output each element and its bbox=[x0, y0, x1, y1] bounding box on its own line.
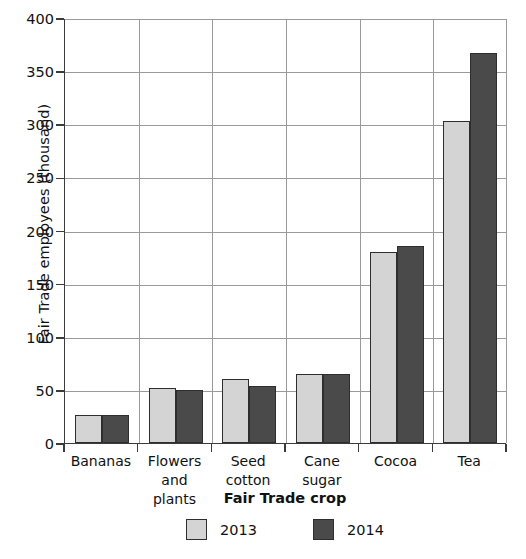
y-axis-tick bbox=[56, 178, 64, 180]
y-axis-tick-label: 350 bbox=[4, 64, 54, 80]
x-axis-tick bbox=[63, 444, 65, 452]
y-axis-tick-label: 250 bbox=[4, 170, 54, 186]
category-label-line: sugar bbox=[285, 471, 359, 490]
y-axis-tick bbox=[56, 71, 64, 73]
bar-seed-cotton-2013 bbox=[222, 379, 249, 443]
group-separator-gridline bbox=[360, 19, 361, 443]
category-label-cane-sugar: Canesugar bbox=[285, 452, 359, 490]
x-axis-tick bbox=[432, 444, 434, 452]
y-axis-tick-label: 200 bbox=[4, 224, 54, 240]
bar-cane-sugar-2013 bbox=[296, 374, 323, 443]
bar-bananas-2014 bbox=[102, 415, 129, 443]
legend-label-2014: 2014 bbox=[347, 522, 384, 538]
legend-item-2013: 2013 bbox=[186, 519, 257, 540]
category-label-tea: Tea bbox=[432, 452, 506, 471]
bar-cocoa-2014 bbox=[397, 246, 424, 443]
bar-flowers-and-plants-2013 bbox=[149, 388, 176, 443]
y-axis-tick-label: 100 bbox=[4, 330, 54, 346]
y-axis-tick-label: 50 bbox=[4, 383, 54, 399]
y-axis-tick-label: 400 bbox=[4, 11, 54, 27]
chart-legend: 20132014 bbox=[64, 519, 506, 540]
y-axis-tick-label: 0 bbox=[4, 436, 54, 452]
category-label-line: Bananas bbox=[64, 452, 138, 471]
category-label-bananas: Bananas bbox=[64, 452, 138, 471]
bar-seed-cotton-2014 bbox=[249, 386, 276, 443]
category-label-line: Cane bbox=[285, 452, 359, 471]
category-label-line: Flowers bbox=[138, 452, 212, 471]
bar-tea-2014 bbox=[470, 53, 497, 443]
plot-right-edge bbox=[506, 19, 507, 443]
legend-label-2013: 2013 bbox=[220, 522, 257, 538]
x-axis-tick bbox=[284, 444, 286, 452]
x-axis-title: Fair Trade crop bbox=[64, 490, 506, 506]
category-label-line: Seed bbox=[211, 452, 285, 471]
y-axis-tick bbox=[56, 231, 64, 233]
legend-item-2014: 2014 bbox=[313, 519, 384, 540]
y-axis-tick-label: 300 bbox=[4, 117, 54, 133]
group-separator-gridline bbox=[286, 19, 287, 443]
bar-bananas-2013 bbox=[75, 415, 102, 443]
category-label-line: Cocoa bbox=[359, 452, 433, 471]
category-label-seed-cotton: Seedcotton bbox=[211, 452, 285, 490]
bar-cocoa-2013 bbox=[370, 252, 397, 443]
group-separator-gridline bbox=[433, 19, 434, 443]
category-label-line: cotton bbox=[211, 471, 285, 490]
legend-swatch-2014 bbox=[313, 519, 334, 540]
bar-flowers-and-plants-2014 bbox=[176, 390, 203, 443]
category-label-cocoa: Cocoa bbox=[359, 452, 433, 471]
plot-area bbox=[64, 19, 506, 444]
y-axis-tick bbox=[56, 390, 64, 392]
x-axis-tick bbox=[137, 444, 139, 452]
group-separator-gridline bbox=[139, 19, 140, 443]
x-axis-tick bbox=[358, 444, 360, 452]
group-separator-gridline bbox=[212, 19, 213, 443]
bar-tea-2013 bbox=[443, 121, 470, 443]
y-axis-tick bbox=[56, 284, 64, 286]
category-label-line: Tea bbox=[432, 452, 506, 471]
y-axis-tick-label: 150 bbox=[4, 277, 54, 293]
x-axis-tick bbox=[505, 444, 507, 452]
bar-cane-sugar-2014 bbox=[323, 374, 350, 443]
x-axis-tick bbox=[211, 444, 213, 452]
legend-swatch-2013 bbox=[186, 519, 207, 540]
y-axis-tick bbox=[56, 337, 64, 339]
y-axis-tick bbox=[56, 124, 64, 126]
bar-chart: Fair Trade employees (thousand) 05010015… bbox=[0, 0, 526, 559]
y-axis-tick bbox=[56, 18, 64, 20]
